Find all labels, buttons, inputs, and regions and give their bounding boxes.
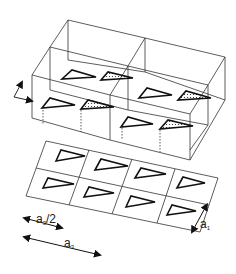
open-triangle-icon (84, 187, 114, 197)
half-a3-label: a3/2 (36, 212, 56, 226)
open-triangle-icon (177, 177, 205, 188)
open-triangle-icon (56, 150, 85, 161)
open-triangle-icon (167, 205, 196, 215)
upper-block (32, 20, 225, 160)
a3-label: a3 (64, 236, 75, 250)
dotted-triangle-icon (81, 100, 114, 109)
upper-molecules (42, 70, 211, 129)
open-triangle-icon (95, 159, 128, 170)
open-triangle-icon (139, 88, 172, 98)
open-triangle-icon (62, 70, 96, 79)
open-triangle-icon (43, 178, 74, 188)
dotted-triangle-icon (178, 91, 211, 100)
open-triangle-icon (126, 196, 155, 207)
lattice-diagram: a3/2 a3 a1 (0, 0, 236, 274)
axis-arrows (14, 82, 32, 101)
lower-molecules (43, 150, 205, 215)
open-triangle-icon (121, 117, 153, 127)
a1-label: a1 (200, 217, 211, 231)
open-triangle-icon (42, 98, 75, 108)
open-triangle-icon (135, 168, 166, 178)
drop-lines (43, 110, 160, 152)
